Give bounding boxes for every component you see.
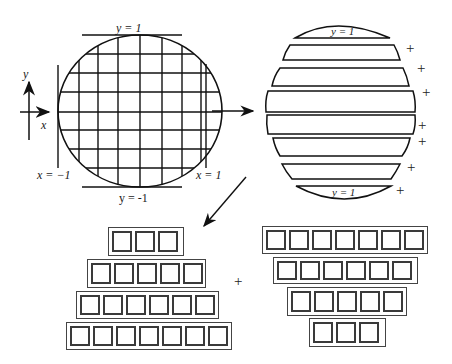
block-row — [273, 257, 418, 284]
block-row — [287, 287, 407, 316]
square-block — [289, 230, 309, 250]
square-block — [116, 326, 136, 346]
plus-sign: + — [417, 61, 425, 76]
square-block — [381, 230, 401, 250]
square-block — [195, 295, 215, 315]
label-strip-top-cap: y = 1 — [331, 26, 354, 37]
square-block — [336, 322, 356, 343]
square-block — [335, 230, 355, 250]
square-block — [337, 291, 357, 312]
strip-1 — [283, 45, 400, 60]
block-row — [87, 259, 206, 288]
square-block — [91, 263, 111, 284]
square-block — [314, 291, 334, 312]
square-block — [360, 291, 380, 312]
square-block — [291, 291, 311, 312]
square-block — [139, 326, 159, 346]
square-block — [185, 326, 205, 346]
horizontal-strips — [266, 26, 416, 199]
square-block — [158, 231, 178, 252]
square-block — [114, 263, 134, 284]
x-axis-label: x — [41, 119, 46, 131]
square-block — [80, 295, 100, 315]
square-block — [137, 263, 157, 284]
plus-sign: + — [422, 85, 430, 100]
label-top-boundary: y = 1 — [116, 22, 141, 34]
plus-sign: + — [418, 134, 426, 149]
plus-sign: + — [418, 118, 426, 133]
square-block — [392, 261, 412, 280]
plus-sign: + — [407, 160, 415, 175]
square-block — [323, 261, 343, 280]
block-row — [66, 322, 232, 350]
label-left-boundary: x = −1 — [37, 169, 71, 181]
strip-4 — [267, 115, 416, 134]
arrow-diagonal-icon — [204, 177, 246, 226]
y-axis-label: y — [23, 68, 28, 80]
square-block — [383, 291, 403, 312]
strip-3 — [266, 91, 416, 112]
square-block — [70, 326, 90, 346]
square-block — [266, 230, 286, 250]
square-block — [126, 295, 146, 315]
square-block — [369, 261, 389, 280]
square-block — [112, 231, 132, 252]
square-block — [135, 231, 155, 252]
square-block — [149, 295, 169, 315]
square-block — [300, 261, 320, 280]
strip-2 — [272, 68, 409, 86]
strip-6 — [282, 164, 400, 179]
square-block — [93, 326, 113, 346]
square-block — [183, 263, 203, 284]
square-block — [172, 295, 192, 315]
block-row — [76, 291, 219, 319]
square-block — [160, 263, 180, 284]
label-strip-bottom-cap: y = 1 — [332, 187, 355, 198]
plus-sign: + — [396, 183, 404, 198]
square-block — [162, 326, 182, 346]
square-block — [277, 261, 297, 280]
plus-sign: + — [406, 41, 414, 56]
label-bottom-boundary: y = -1 — [119, 192, 148, 204]
strip-5 — [273, 138, 410, 156]
label-right-boundary: x = 1 — [196, 169, 221, 181]
block-row — [309, 318, 386, 347]
square-block — [208, 326, 228, 346]
square-block — [346, 261, 366, 280]
block-row — [262, 226, 428, 254]
block-row — [108, 227, 184, 256]
plus-sign-between-stacks: + — [234, 274, 242, 289]
square-block — [359, 322, 379, 343]
square-block — [312, 230, 332, 250]
square-block — [103, 295, 123, 315]
square-block — [404, 230, 424, 250]
square-block — [313, 322, 333, 343]
square-block — [358, 230, 378, 250]
